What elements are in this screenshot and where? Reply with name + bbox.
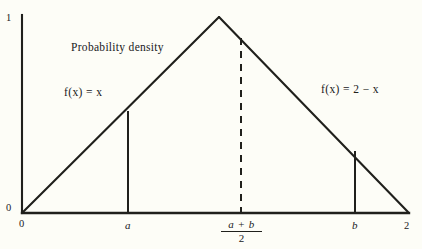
x-tick-label-a: a	[125, 220, 131, 231]
fraction-denominator: 2	[221, 232, 262, 244]
plot-canvas	[0, 0, 422, 249]
probability-density-caption: Probability density	[71, 42, 164, 54]
x-tick-label-midpoint-fraction: a + b 2	[221, 219, 262, 244]
formula-label-left: f(x) = x	[64, 87, 102, 99]
density-line-descending	[219, 17, 408, 212]
y-axis-bottom-label: 0	[6, 203, 11, 214]
fraction-numerator: a + b	[221, 219, 262, 232]
x-tick-label-b: b	[352, 220, 358, 231]
y-axis-top-label: 1	[6, 13, 11, 24]
x-tick-label-0: 0	[19, 219, 24, 230]
formula-label-right: f(x) = 2 − x	[321, 84, 379, 96]
x-tick-label-2: 2	[404, 221, 409, 232]
probability-density-figure: 1 0 0 a b 2 a + b 2 Probability density …	[0, 0, 422, 249]
